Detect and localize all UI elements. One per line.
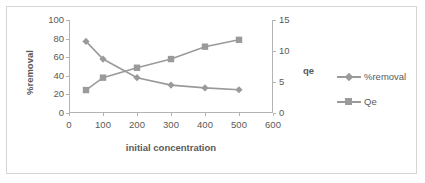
- legend-item-removal: %removal: [337, 71, 406, 82]
- y-axis-left-tick-label: 0: [59, 108, 64, 118]
- data-point-marker: [133, 74, 140, 81]
- data-point-marker: [202, 43, 208, 49]
- legend-marker-diamond-icon: [337, 72, 361, 82]
- x-axis-tick-label: 100: [95, 120, 111, 130]
- x-axis-title: initial concentration: [69, 142, 273, 153]
- y-axis-right-tick-label: 15: [279, 15, 290, 25]
- y-axis-right-tick-label: 5: [279, 77, 284, 87]
- y-axis-title-right: qe: [303, 65, 314, 76]
- tick-mark: [137, 113, 138, 116]
- tick-mark: [273, 20, 276, 21]
- y-axis-right-tick-label: 10: [279, 46, 290, 56]
- legend-label: %removal: [364, 71, 406, 82]
- data-point-marker: [236, 37, 242, 43]
- tick-mark: [205, 113, 206, 116]
- legend-item-qe: Qe: [337, 96, 406, 107]
- y-axis-left-tick-label: 20: [53, 90, 64, 100]
- y-axis-left-tick-label: 40: [53, 71, 64, 81]
- data-point-marker: [134, 65, 140, 71]
- legend-label: Qe: [364, 96, 377, 107]
- series-line-removal: [86, 41, 239, 89]
- tick-mark: [273, 113, 274, 116]
- tick-mark: [69, 113, 70, 116]
- data-point-marker: [167, 82, 174, 89]
- legend-marker-square-icon: [337, 97, 361, 107]
- tick-mark: [273, 82, 276, 83]
- x-axis-tick-label: 600: [265, 120, 281, 130]
- data-point-marker: [235, 86, 242, 93]
- x-axis-tick-label: 500: [231, 120, 247, 130]
- tick-mark: [239, 113, 240, 116]
- series-layer: [69, 20, 273, 113]
- data-point-marker: [83, 87, 89, 93]
- plot-area: 020406080100 051015 0100200300400500600: [69, 20, 273, 113]
- data-point-marker: [100, 74, 106, 80]
- tick-mark: [171, 113, 172, 116]
- data-point-marker: [168, 56, 174, 62]
- x-axis-tick-label: 200: [129, 120, 145, 130]
- chart-legend: %removal Qe: [337, 71, 406, 107]
- y-axis-right-tick-label: 0: [279, 108, 284, 118]
- tick-mark: [273, 51, 276, 52]
- x-axis-tick-label: 0: [66, 120, 71, 130]
- chart-container: %removal qe initial concentration 020406…: [6, 6, 417, 174]
- y-axis-left-tick-label: 100: [48, 15, 64, 25]
- y-axis-title-left: %removal: [23, 35, 35, 111]
- y-axis-left-tick-label: 60: [53, 52, 64, 62]
- tick-mark: [103, 113, 104, 116]
- y-axis-left-tick-label: 80: [53, 34, 64, 44]
- x-axis-tick-label: 400: [197, 120, 213, 130]
- data-point-marker: [201, 84, 208, 91]
- x-axis-tick-label: 300: [163, 120, 179, 130]
